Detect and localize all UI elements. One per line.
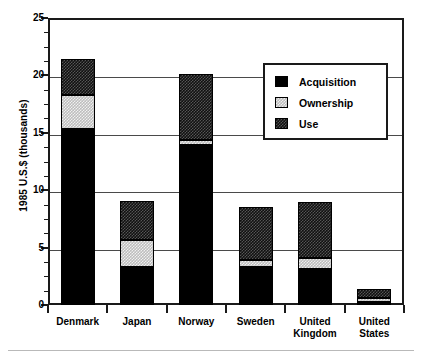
bar-segment-acquisition bbox=[239, 267, 273, 305]
bar-segment-use bbox=[61, 59, 95, 95]
bar-segment-ownership bbox=[61, 95, 95, 129]
y-tick-minor bbox=[44, 47, 48, 48]
y-tick-label: 20 bbox=[4, 69, 44, 80]
x-tick bbox=[106, 305, 108, 313]
x-tick-label: UnitedStates bbox=[345, 316, 404, 339]
bar-segment-use bbox=[298, 202, 332, 258]
y-tick-minor bbox=[44, 147, 48, 148]
x-tick bbox=[166, 305, 168, 313]
x-tick-label: Sweden bbox=[226, 316, 285, 328]
x-tick-label: Denmark bbox=[48, 316, 107, 328]
bar-stack bbox=[61, 18, 95, 305]
bar-stack bbox=[120, 18, 154, 305]
bar-stack bbox=[239, 18, 273, 305]
use-swatch bbox=[275, 118, 288, 129]
y-tick-minor bbox=[44, 162, 48, 163]
y-tick-minor bbox=[44, 262, 48, 263]
y-tick-label: 5 bbox=[4, 242, 44, 253]
x-tick-label-line: States bbox=[345, 328, 404, 340]
y-tick-minor bbox=[44, 219, 48, 220]
bar-segment-ownership bbox=[239, 260, 273, 267]
y-axis-title: 1985 U.S.$ (thousands) bbox=[18, 61, 29, 251]
bar-stack bbox=[298, 18, 332, 305]
plot-area bbox=[48, 18, 404, 305]
figure-bottom-rule bbox=[8, 350, 414, 351]
x-tick-label-line: Sweden bbox=[226, 316, 285, 328]
x-tick-label-line: Japan bbox=[107, 316, 166, 328]
x-tick bbox=[403, 305, 405, 313]
x-tick-label-line: United bbox=[345, 316, 404, 328]
bar-segment-acquisition bbox=[179, 145, 213, 305]
y-tick-minor bbox=[44, 32, 48, 33]
bar-segment-acquisition bbox=[61, 129, 95, 305]
bar-stack bbox=[357, 18, 391, 305]
bar-segment-ownership bbox=[179, 140, 213, 146]
legend-item-acquisition[interactable]: Acquisition bbox=[265, 71, 386, 92]
y-tick-minor bbox=[44, 176, 48, 177]
x-tick-label-line: Norway bbox=[167, 316, 226, 328]
bar-segment-use bbox=[179, 74, 213, 139]
x-tick-label: Japan bbox=[107, 316, 166, 328]
bar-segment-ownership bbox=[357, 298, 391, 301]
bar-stack bbox=[179, 18, 213, 305]
y-tick-minor bbox=[44, 291, 48, 292]
y-tick-label: 0 bbox=[4, 299, 44, 310]
y-tick-label: 15 bbox=[4, 127, 44, 138]
chart-legend: AcquisitionOwnershipUse bbox=[263, 63, 388, 140]
gridline bbox=[50, 250, 402, 251]
bar-segment-use bbox=[120, 201, 154, 240]
x-tick bbox=[225, 305, 227, 313]
legend-label: Ownership bbox=[299, 97, 353, 109]
bar-segment-ownership bbox=[120, 240, 154, 268]
y-tick-minor bbox=[44, 61, 48, 62]
legend-label: Acquisition bbox=[299, 76, 356, 88]
bar-segment-ownership bbox=[298, 258, 332, 269]
x-tick-label: Norway bbox=[167, 316, 226, 328]
bar-segment-acquisition bbox=[357, 302, 391, 305]
y-tick-minor bbox=[44, 104, 48, 105]
y-tick-minor bbox=[44, 205, 48, 206]
y-tick-label: 25 bbox=[4, 12, 44, 23]
bar-segment-acquisition bbox=[120, 267, 154, 305]
gridline bbox=[50, 192, 402, 193]
y-tick-label: 10 bbox=[4, 184, 44, 195]
x-tick-label-line: Denmark bbox=[48, 316, 107, 328]
x-tick bbox=[344, 305, 346, 313]
ownership-swatch bbox=[275, 97, 288, 108]
bar-segment-acquisition bbox=[298, 269, 332, 305]
acquisition-swatch bbox=[275, 76, 288, 87]
legend-item-ownership[interactable]: Ownership bbox=[265, 92, 386, 113]
y-tick-minor bbox=[44, 90, 48, 91]
x-tick bbox=[284, 305, 286, 313]
x-tick bbox=[47, 305, 49, 313]
y-tick-minor bbox=[44, 118, 48, 119]
bar-segment-use bbox=[357, 289, 391, 298]
y-tick-minor bbox=[44, 233, 48, 234]
y-tick-minor bbox=[44, 276, 48, 277]
x-tick-label-line: United bbox=[285, 316, 344, 328]
x-tick-label-line: Kingdom bbox=[285, 328, 344, 340]
legend-label: Use bbox=[299, 118, 318, 130]
bar-segment-use bbox=[239, 207, 273, 260]
x-tick-label: UnitedKingdom bbox=[285, 316, 344, 339]
legend-item-use[interactable]: Use bbox=[265, 113, 386, 134]
stacked-bar-chart: 1985 U.S.$ (thousands) 0510152025 Denmar… bbox=[0, 0, 422, 358]
